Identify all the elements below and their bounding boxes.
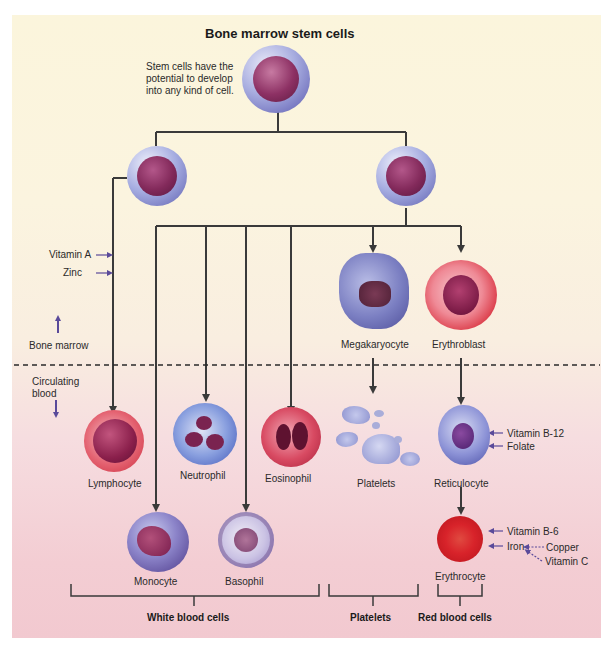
nutrient-vitamin-a: Vitamin A bbox=[49, 249, 91, 260]
stem-note-line: into any kind of cell. bbox=[146, 85, 234, 97]
cofactor-vitamin-c: Vitamin C bbox=[545, 556, 588, 567]
eosinophil-image bbox=[261, 407, 321, 467]
erythrocyte-image bbox=[437, 516, 483, 562]
reticulocyte-image bbox=[438, 405, 490, 465]
stem-note-line: Stem cells have the bbox=[146, 61, 234, 73]
basophil-image bbox=[218, 512, 274, 568]
diagram-title: Bone marrow stem cells bbox=[205, 26, 355, 41]
stem-cell-note: Stem cells have the potential to develop… bbox=[146, 61, 234, 97]
nutrient-vitamin-b12: Vitamin B-12 bbox=[507, 428, 564, 439]
lymphocyte-image bbox=[84, 410, 144, 472]
myeloid-progenitor-image bbox=[376, 146, 436, 206]
nutrient-iron: Iron bbox=[507, 541, 524, 552]
group-label-platelets: Platelets bbox=[350, 612, 391, 623]
eosinophil-label: Eosinophil bbox=[265, 473, 311, 484]
platelets-label: Platelets bbox=[357, 478, 395, 489]
platelets-image bbox=[334, 400, 424, 470]
nutrient-vitamin-b6: Vitamin B-6 bbox=[507, 526, 559, 537]
lineage-connectors bbox=[0, 0, 612, 650]
erythroblast-label: Erythroblast bbox=[432, 339, 485, 350]
lymphoid-progenitor-image bbox=[127, 146, 187, 206]
monocyte-image bbox=[127, 512, 189, 572]
neutrophil-image bbox=[173, 403, 237, 465]
stem-cell-image bbox=[242, 45, 310, 113]
zone-label-bone-marrow: Bone marrow bbox=[29, 340, 88, 351]
group-label-red-blood-cells: Red blood cells bbox=[418, 612, 492, 623]
group-label-white-blood-cells: White blood cells bbox=[147, 612, 229, 623]
nutrient-folate: Folate bbox=[507, 441, 535, 452]
cofactor-copper: Copper bbox=[546, 542, 579, 553]
stem-note-line: potential to develop bbox=[146, 73, 234, 85]
erythrocyte-label: Erythrocyte bbox=[435, 571, 486, 582]
nutrient-zinc: Zinc bbox=[63, 267, 82, 278]
zone-label-circulating-blood: Circulating blood bbox=[32, 376, 79, 400]
megakaryocyte-image bbox=[339, 253, 409, 329]
neutrophil-label: Neutrophil bbox=[180, 470, 226, 481]
reticulocyte-label: Reticulocyte bbox=[434, 478, 488, 489]
monocyte-label: Monocyte bbox=[134, 576, 177, 587]
basophil-label: Basophil bbox=[225, 576, 263, 587]
erythroblast-image bbox=[425, 260, 497, 330]
zone-label-line: blood bbox=[32, 388, 79, 400]
megakaryocyte-label: Megakaryocyte bbox=[341, 339, 409, 350]
zone-label-line: Circulating bbox=[32, 376, 79, 388]
lymphocyte-label: Lymphocyte bbox=[88, 478, 142, 489]
